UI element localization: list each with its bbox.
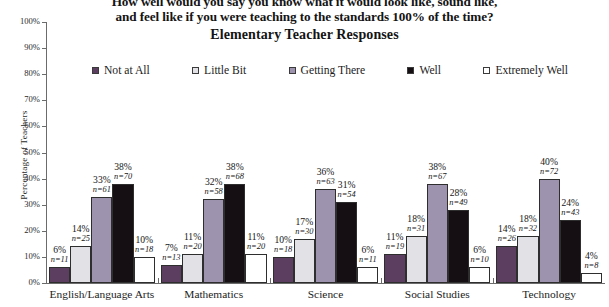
bar-percent-label: 11%: [247, 232, 265, 242]
bar-percent-label: 18%: [407, 214, 425, 224]
bar-slot: 28%n=49: [448, 22, 469, 283]
bar-value-label: 11%n=19: [386, 232, 404, 252]
bar-slot: 7%n=13: [161, 22, 182, 283]
bar-slot: 17%n=30: [294, 22, 315, 283]
bar-percent-label: 32%: [205, 177, 223, 187]
bar-slot: 24%n=43: [560, 22, 581, 283]
bar-count-label: n=68: [226, 172, 244, 182]
bar-count-label: n=11: [359, 255, 377, 265]
bar-count-label: n=32: [519, 224, 537, 234]
bar-percent-label: 14%: [498, 224, 516, 234]
bar-percent-label: 40%: [540, 157, 558, 167]
bar-percent-label: 38%: [226, 162, 244, 172]
bar-value-label: 36%n=63: [316, 167, 334, 187]
bar-value-label: 17%n=30: [295, 217, 313, 237]
bar-slot: 11%n=19: [384, 22, 405, 283]
x-axis-category-label: Mathematics: [184, 288, 243, 300]
bar-slot: 33%n=61: [91, 22, 112, 283]
bar-percent-label: 6%: [359, 245, 377, 255]
y-axis-tick-label: 40%: [4, 173, 40, 183]
bar-count-label: n=49: [449, 198, 467, 208]
bar-percent-label: 17%: [295, 217, 313, 227]
bar-count-label: n=58: [205, 187, 223, 197]
bar-count-label: n=20: [183, 242, 201, 252]
bar-value-label: 4%n=8: [584, 251, 598, 271]
bar-value-label: 10%n=18: [274, 235, 292, 255]
bar-count-label: n=18: [274, 245, 292, 255]
bar-count-label: n=43: [561, 208, 579, 218]
bar-count-label: n=18: [135, 245, 153, 255]
bar-slot: 10%n=18: [273, 22, 294, 283]
bar-percent-label: 36%: [316, 167, 334, 177]
bar-value-label: 33%n=61: [93, 175, 111, 195]
bar-value-label: 31%n=54: [338, 180, 356, 200]
bar-count-label: n=8: [584, 261, 598, 271]
bar-slot: 10%n=18: [134, 22, 155, 283]
bar-group-social-studies: 11%n=1918%n=3138%n=6728%n=496%n=10Social…: [381, 22, 493, 283]
y-axis-tick-label: 60%: [4, 120, 40, 130]
bar-slot: 6%n=10: [469, 22, 490, 283]
bar-slot: 11%n=20: [182, 22, 203, 283]
bar-chart: How well would you say you know what it …: [0, 0, 609, 307]
x-axis-category-label: Science: [308, 288, 343, 300]
bar-count-label: n=10: [470, 255, 488, 265]
bar-slot: 6%n=11: [357, 22, 378, 283]
bar-percent-label: 7%: [162, 243, 180, 253]
bar-percent-label: 6%: [470, 245, 488, 255]
bar-percent-label: 31%: [338, 180, 356, 190]
bar-value-label: 28%n=49: [449, 188, 467, 208]
bar-value-label: 18%n=32: [519, 214, 537, 234]
y-axis-tick-label: 80%: [4, 68, 40, 78]
bar-group-mathematics: 7%n=1311%n=2032%n=5838%n=6811%n=20Mathem…: [158, 22, 270, 283]
bar-count-label: n=19: [386, 242, 404, 252]
bar-slot: 38%n=67: [427, 22, 448, 283]
bar-value-label: 24%n=43: [561, 198, 579, 218]
bar-value-label: 6%n=10: [470, 245, 488, 265]
bar-count-label: n=30: [295, 227, 313, 237]
bar-value-label: 11%n=20: [183, 232, 201, 252]
bar-percent-label: 6%: [51, 245, 69, 255]
bar-value-label: 7%n=13: [162, 243, 180, 263]
bar-percent-label: 28%: [449, 188, 467, 198]
chart-title: How well would you say you know what it …: [0, 0, 609, 24]
bar-count-label: n=20: [247, 242, 265, 252]
bar-slot: 14%n=25: [70, 22, 91, 283]
x-axis-category-label: English/Language Arts: [50, 288, 155, 300]
bar-slot: 31%n=54: [336, 22, 357, 283]
y-axis-tick-label: 30%: [4, 199, 40, 209]
x-axis-line: [46, 283, 605, 284]
bar-count-label: n=61: [93, 185, 111, 195]
bar-count-label: n=31: [407, 224, 425, 234]
group-separator-tick: [270, 278, 271, 283]
bar-percent-label: 4%: [584, 251, 598, 261]
bar-count-label: n=11: [51, 255, 69, 265]
bar-count-label: n=25: [72, 234, 90, 244]
group-separator-tick: [493, 278, 494, 283]
bar-percent-label: 18%: [519, 214, 537, 224]
y-axis-tick-label: 0%: [4, 277, 40, 287]
bar-percent-label: 38%: [428, 162, 446, 172]
bar-percent-label: 10%: [274, 235, 292, 245]
bar-count-label: n=67: [428, 172, 446, 182]
bar-count-label: n=72: [540, 167, 558, 177]
bar-value-label: 38%n=68: [226, 162, 244, 182]
group-separator-tick: [381, 278, 382, 283]
bar-slot: 11%n=20: [245, 22, 266, 283]
bar-percent-label: 33%: [93, 175, 111, 185]
bar-percent-label: 11%: [183, 232, 201, 242]
bar-slot: 18%n=32: [517, 22, 538, 283]
y-axis-tick-label: 10%: [4, 251, 40, 261]
x-axis-category-label: Technology: [522, 288, 576, 300]
bar-count-label: n=70: [114, 172, 132, 182]
plot-area: 100%90%80%70%60%50%40%30%20%10%0%6%n=111…: [46, 22, 605, 283]
bar-group-science: 10%n=1817%n=3036%n=6331%n=546%n=11Scienc…: [270, 22, 382, 283]
bar-count-label: n=54: [338, 190, 356, 200]
bar-value-label: 14%n=25: [72, 224, 90, 244]
y-axis-tick-label: 90%: [4, 42, 40, 52]
bar-slot: 32%n=58: [203, 22, 224, 283]
bar-value-label: 10%n=18: [135, 235, 153, 255]
bar-percent-label: 38%: [114, 162, 132, 172]
bar-percent-label: 24%: [561, 198, 579, 208]
bar-value-label: 38%n=70: [114, 162, 132, 182]
bar-slot: 6%n=11: [49, 22, 70, 283]
